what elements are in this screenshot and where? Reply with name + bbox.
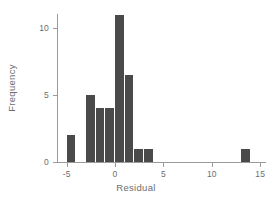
x-axis-title: Residual: [0, 182, 272, 193]
histogram-bar: [105, 108, 114, 162]
histogram-bar: [115, 15, 124, 162]
y-tick-label: 5: [44, 90, 49, 100]
histogram-bar: [241, 149, 250, 162]
y-tick-mark: [53, 162, 57, 163]
x-tick-mark: [163, 163, 164, 167]
x-tick-mark: [67, 163, 68, 167]
y-axis-title: Frequency: [6, 64, 17, 112]
histogram-bar: [86, 95, 95, 162]
x-tick-label: 10: [207, 169, 217, 179]
x-tick-mark: [212, 163, 213, 167]
y-tick-mark: [53, 28, 57, 29]
x-tick-label: 0: [113, 169, 118, 179]
histogram-figure: -5051015 0510 Residual Frequency: [0, 0, 272, 202]
x-tick-label: -5: [63, 169, 71, 179]
x-tick-mark: [115, 163, 116, 167]
x-axis-line: [57, 162, 266, 163]
y-tick-label: 0: [44, 157, 49, 167]
x-tick-mark: [260, 163, 261, 167]
x-tick-label: 15: [255, 169, 265, 179]
histogram-bar: [125, 75, 134, 162]
x-tick-label: 5: [161, 169, 166, 179]
histogram-bar: [96, 108, 105, 162]
histogram-bar: [67, 135, 76, 162]
y-tick-label: 10: [39, 23, 49, 33]
y-tick-mark: [53, 95, 57, 96]
y-axis-line: [57, 14, 58, 162]
histogram-bar: [134, 149, 143, 162]
histogram-bar: [144, 149, 153, 162]
